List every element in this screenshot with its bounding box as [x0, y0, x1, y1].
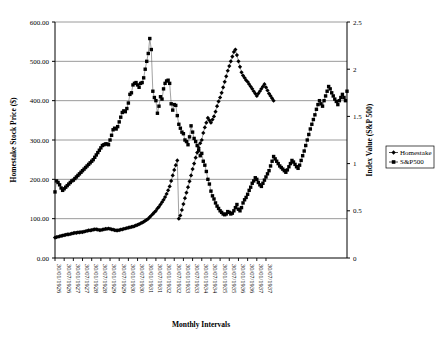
- x-axis-tick-label: 30/01/1931: [148, 264, 155, 293]
- data-point: [203, 125, 207, 129]
- series-line: [55, 39, 347, 215]
- data-point: [321, 104, 324, 107]
- data-point: [157, 104, 160, 107]
- data-point: [142, 76, 145, 79]
- data-point: [107, 143, 110, 146]
- data-point: [230, 55, 234, 59]
- data-point: [263, 178, 266, 181]
- data-point: [110, 134, 113, 137]
- data-point: [181, 202, 185, 206]
- x-axis-tick-label: 30/01/1937: [258, 264, 265, 294]
- data-point: [153, 96, 156, 99]
- data-point: [270, 160, 273, 163]
- x-axis-tick-label: 30/01/1930: [130, 264, 137, 293]
- data-point: [240, 206, 243, 209]
- data-point: [261, 182, 264, 185]
- data-point: [296, 167, 299, 170]
- x-axis-tick-label: 30/01/1932: [166, 264, 173, 293]
- data-point: [234, 206, 237, 209]
- data-point: [168, 82, 171, 85]
- data-point: [339, 96, 342, 99]
- x-axis-tick-label: 30/01/1934: [203, 264, 210, 294]
- data-point: [192, 162, 196, 166]
- data-point: [215, 104, 219, 108]
- data-point: [108, 138, 111, 141]
- data-point: [171, 108, 174, 111]
- y-axis-right-tick-label: 1.5: [353, 113, 362, 121]
- data-point: [203, 163, 206, 166]
- data-point: [306, 138, 309, 141]
- data-point: [147, 52, 150, 55]
- data-point: [325, 90, 328, 93]
- data-point: [162, 87, 165, 90]
- chart-container: 0.00100.00200.00300.00400.00500.00600.00…: [0, 0, 439, 337]
- data-point: [202, 160, 205, 163]
- data-point: [205, 170, 208, 173]
- data-point: [200, 152, 203, 155]
- data-point: [172, 168, 176, 172]
- data-point: [184, 191, 188, 195]
- data-point: [188, 135, 191, 138]
- data-point: [315, 108, 318, 111]
- data-point: [299, 159, 302, 162]
- data-point: [204, 121, 208, 125]
- legend: HomestakeS&P500: [386, 146, 434, 168]
- data-point: [229, 59, 233, 63]
- data-point: [116, 125, 119, 128]
- data-point: [226, 69, 230, 73]
- x-axis-tick-label: 30/01/1927: [75, 264, 82, 294]
- data-point: [168, 184, 172, 188]
- data-point: [247, 189, 250, 192]
- data-point: [310, 123, 313, 126]
- y-axis-right-tick-label: 2: [353, 66, 357, 74]
- data-point: [145, 60, 148, 63]
- data-point: [130, 91, 133, 94]
- data-point: [182, 132, 185, 135]
- x-axis-tick-label: 30/01/1936: [240, 264, 247, 293]
- data-point: [221, 85, 225, 89]
- data-point: [238, 65, 242, 69]
- data-point: [175, 158, 179, 162]
- x-axis-tick-label: 30/01/1935: [222, 264, 229, 293]
- data-point: [124, 110, 127, 113]
- data-point: [156, 112, 159, 115]
- y-axis-left-tick-label: 100.00: [30, 215, 50, 223]
- data-point: [211, 194, 214, 197]
- x-axis-tick-label: 30/07/1930: [139, 264, 146, 293]
- data-point: [238, 209, 241, 212]
- series-homestake: [53, 47, 276, 239]
- data-point: [194, 156, 198, 160]
- data-point: [287, 165, 290, 168]
- data-point: [255, 178, 258, 181]
- data-point: [302, 149, 305, 152]
- data-point: [213, 110, 217, 114]
- data-point: [224, 74, 228, 78]
- data-point: [223, 80, 227, 84]
- data-point: [244, 196, 247, 199]
- data-point: [220, 91, 224, 95]
- data-point: [189, 124, 192, 127]
- data-point: [286, 168, 289, 171]
- data-point: [227, 64, 231, 68]
- y-axis-left-tick-label: 200.00: [30, 176, 50, 184]
- data-point: [180, 208, 184, 212]
- x-axis-tick-label: 30/07/1936: [249, 264, 256, 293]
- data-point: [260, 185, 263, 188]
- y-axis-left-tick-label: 300.00: [30, 137, 50, 145]
- data-point: [269, 164, 272, 167]
- data-point: [154, 99, 157, 102]
- data-point: [144, 68, 147, 71]
- data-point: [342, 96, 345, 99]
- data-point: [301, 154, 304, 157]
- data-point: [235, 53, 239, 57]
- data-point: [335, 100, 338, 103]
- data-point: [216, 99, 220, 103]
- x-axis-tick-label: 30/07/1931: [157, 264, 164, 293]
- data-point: [58, 183, 61, 186]
- data-point: [324, 94, 327, 97]
- x-axis-tick-label: 30/07/1926: [66, 264, 73, 293]
- data-point: [185, 140, 188, 143]
- data-point: [166, 79, 169, 82]
- data-point: [208, 182, 211, 185]
- data-point: [318, 99, 321, 102]
